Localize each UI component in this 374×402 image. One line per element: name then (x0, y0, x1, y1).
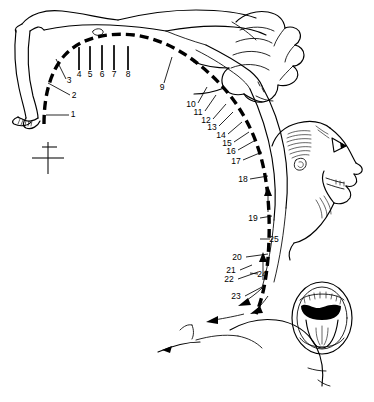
label-number-16: 16 (226, 146, 236, 156)
label-number-20: 20 (232, 252, 242, 262)
label-number-24: 24 (257, 269, 267, 279)
label-number-18: 18 (238, 174, 248, 184)
label-number-23: 23 (231, 291, 241, 301)
label-number-9: 9 (160, 82, 165, 92)
label-number-3: 3 (67, 75, 72, 85)
label-number-17: 17 (231, 156, 241, 166)
label-number-6: 6 (100, 69, 105, 79)
label-number-19: 19 (248, 213, 258, 223)
label-number-22: 22 (224, 274, 234, 284)
label-number-1: 1 (71, 109, 76, 119)
figure-background (0, 0, 374, 402)
figure-container: 1234567891011121314151617181920212223242… (0, 0, 374, 402)
label-number-8: 8 (126, 69, 131, 79)
label-number-25: 25 (269, 234, 279, 244)
label-number-2: 2 (72, 90, 77, 100)
label-number-4: 4 (77, 69, 82, 79)
label-number-7: 7 (112, 69, 117, 79)
anatomical-line-drawing: 1234567891011121314151617181920212223242… (0, 0, 374, 402)
label-number-5: 5 (88, 69, 93, 79)
